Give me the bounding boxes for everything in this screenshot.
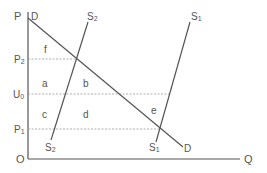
p2-label: P2 (14, 54, 25, 65)
s1-top-label: S1 (191, 11, 202, 22)
region-f: f (44, 44, 47, 55)
s2-top-label: S2 (87, 11, 98, 22)
supply-curve-s1 (156, 22, 190, 142)
region-a: a (42, 78, 48, 89)
u0-label: U0 (13, 89, 24, 100)
region-d: d (83, 109, 89, 120)
y-axis-label: P (14, 10, 21, 22)
p1-label: P1 (14, 124, 25, 135)
origin-label: O (16, 153, 25, 165)
demand-bottom-label: D (184, 143, 191, 154)
s2-bottom-label: S2 (45, 142, 56, 153)
region-c: c (42, 109, 47, 120)
welfare-diagram: P Q O P2 U0 P1 D D S2 S2 S1 S1 f a b c d… (0, 0, 267, 173)
demand-top-label: D (31, 11, 38, 22)
s1-bottom-label: S1 (149, 142, 160, 153)
region-b: b (83, 78, 89, 89)
x-axis-label: Q (244, 153, 253, 165)
region-e: e (151, 105, 157, 116)
